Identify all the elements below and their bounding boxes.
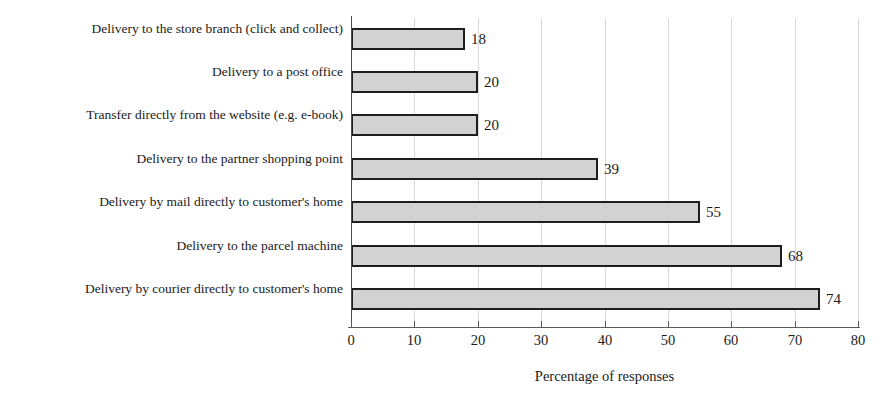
gridline-80	[858, 18, 859, 322]
bar	[351, 158, 598, 180]
bar	[351, 245, 782, 267]
category-label: Transfer directly from the website (e.g.…	[11, 104, 351, 126]
bar-row: 20	[351, 71, 499, 93]
bar-value-label: 20	[484, 75, 499, 90]
category-axis-labels: Delivery to the store branch (click and …	[0, 18, 351, 322]
bar-row: 18	[351, 28, 486, 50]
x-tick-label: 40	[585, 333, 625, 348]
bar-row: 20	[351, 114, 499, 136]
bar-row: 55	[351, 201, 721, 223]
x-tick-label: 0	[331, 333, 371, 348]
bar	[351, 114, 478, 136]
x-tick-label: 60	[711, 333, 751, 348]
bar-value-label: 55	[706, 205, 721, 220]
bar-row: 39	[351, 158, 619, 180]
y-axis-line	[351, 16, 352, 328]
category-label: Delivery to the partner shopping point	[11, 148, 351, 170]
category-label: Delivery to the store branch (click and …	[11, 18, 351, 40]
category-label: Delivery to the parcel machine	[11, 235, 351, 257]
bar	[351, 288, 820, 310]
gridline-60	[731, 18, 732, 322]
bar	[351, 71, 478, 93]
plot-area: 18 20 20 39 55 68 74	[351, 18, 858, 322]
gridline-50	[668, 18, 669, 322]
x-axis-line	[348, 327, 860, 328]
x-tick-label: 70	[775, 333, 815, 348]
bar	[351, 28, 465, 50]
x-tick-80	[858, 321, 859, 327]
bar-value-label: 20	[484, 118, 499, 133]
x-tick-60	[731, 321, 732, 327]
bar-row: 68	[351, 245, 803, 267]
category-label: Delivery by courier directly to customer…	[11, 278, 351, 300]
x-tick-0	[351, 321, 352, 327]
bar-value-label: 18	[471, 32, 486, 47]
x-tick-30	[541, 321, 542, 327]
bar-value-label: 74	[826, 292, 841, 307]
gridline-70	[795, 18, 796, 322]
x-tick-label: 10	[394, 333, 434, 348]
x-tick-label: 20	[458, 333, 498, 348]
bar-chart-figure: Delivery to the store branch (click and …	[0, 0, 885, 406]
x-tick-20	[478, 321, 479, 327]
x-tick-50	[668, 321, 669, 327]
category-label: Delivery to a post office	[11, 61, 351, 83]
x-axis-title: Percentage of responses	[351, 368, 858, 385]
x-tick-label: 80	[838, 333, 878, 348]
x-tick-40	[605, 321, 606, 327]
category-label: Delivery by mail directly to customer's …	[11, 191, 351, 213]
bar-row: 74	[351, 288, 841, 310]
bar-value-label: 39	[604, 162, 619, 177]
bar	[351, 201, 700, 223]
x-tick-label: 50	[648, 333, 688, 348]
x-tick-label: 30	[521, 333, 561, 348]
x-tick-70	[795, 321, 796, 327]
bar-value-label: 68	[788, 249, 803, 264]
x-tick-10	[414, 321, 415, 327]
